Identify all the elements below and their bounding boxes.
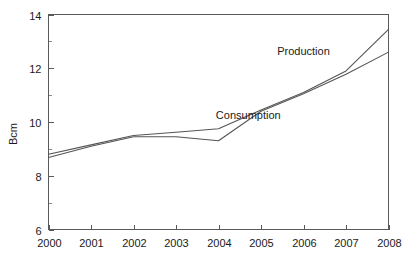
annotation-consumption: Consumption: [216, 109, 281, 121]
y-tick-label-8: 8: [35, 171, 41, 183]
y-tick-label-14: 14: [29, 10, 41, 22]
y-tick-label-12: 12: [29, 63, 41, 75]
x-tick-label-2007: 2007: [334, 237, 358, 249]
x-tick-label-2006: 2006: [292, 237, 316, 249]
series-annotations: ProductionConsumption: [216, 45, 330, 122]
y-tick-label-6: 6: [35, 225, 41, 237]
x-tick-label-2003: 2003: [164, 237, 188, 249]
x-tick-label-2004: 2004: [207, 237, 231, 249]
y-axis-major-ticks: 68101214: [29, 10, 53, 237]
y-tick-label-10: 10: [29, 117, 41, 129]
series-lines: [49, 29, 389, 157]
series-line-production: [49, 29, 389, 154]
x-tick-label-2002: 2002: [122, 237, 146, 249]
annotation-production: Production: [277, 45, 330, 57]
plot-frame: [49, 15, 389, 230]
line-chart: 68101214 2000200120022003200420052006200…: [0, 0, 420, 264]
series-line-consumption: [49, 52, 389, 157]
x-tick-label-2001: 2001: [79, 237, 103, 249]
x-tick-label-2000: 2000: [37, 237, 61, 249]
x-axis-ticks: 200020012002200320042005200620072008: [37, 225, 401, 249]
y-axis-title: Bcm: [7, 123, 19, 145]
x-tick-label-2005: 2005: [249, 237, 273, 249]
x-tick-label-2008: 2008: [377, 237, 401, 249]
chart-container: 68101214 2000200120022003200420052006200…: [0, 0, 420, 264]
